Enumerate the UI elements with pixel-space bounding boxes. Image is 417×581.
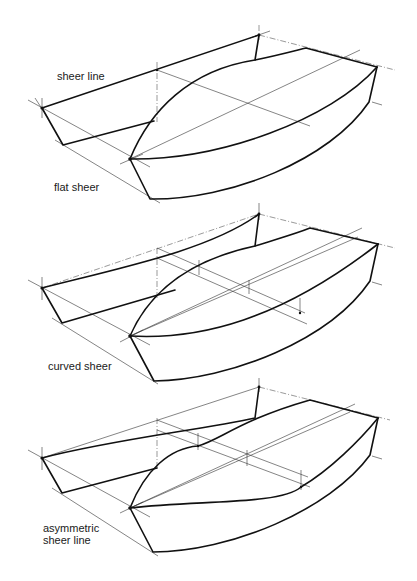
transom-edge — [42, 108, 154, 145]
construction-line — [52, 318, 158, 384]
construction-line — [157, 420, 308, 477]
tick-mark — [372, 456, 382, 459]
node — [197, 445, 199, 447]
node — [258, 386, 261, 389]
chine-line — [130, 418, 378, 508]
node — [128, 157, 132, 161]
hull-bottom — [130, 418, 378, 552]
construction-line — [55, 140, 160, 203]
panel-flat-sheer — [28, 25, 395, 203]
label-flat-sheer: flat sheer — [54, 181, 99, 193]
tick-mark — [372, 102, 382, 105]
node — [40, 106, 43, 109]
construction-line — [157, 258, 307, 324]
label-asymmetric-sheer-line: sheer line — [43, 534, 91, 546]
boat-sheer-diagram: sheer line flat sheer curved sheer asymm… — [0, 0, 417, 581]
label-curved-sheer: curved sheer — [48, 360, 112, 372]
hull-bottom — [130, 67, 377, 199]
construction-line — [42, 214, 259, 288]
node — [40, 286, 43, 289]
deck-edge — [130, 48, 377, 159]
node — [258, 34, 261, 37]
construction-line — [130, 404, 355, 508]
stern-post — [255, 214, 259, 246]
node — [128, 334, 132, 338]
node — [299, 312, 301, 314]
diagram-svg — [0, 0, 417, 581]
construction-line — [157, 70, 310, 126]
stern-post — [255, 35, 259, 60]
label-asymmetric: asymmetric — [43, 522, 99, 534]
panel-curved-sheer — [28, 203, 395, 384]
construction-line — [259, 35, 395, 70]
chine-line — [130, 244, 378, 336]
chine-line — [130, 67, 377, 159]
construction-line — [42, 387, 259, 458]
node — [40, 456, 43, 459]
node — [258, 213, 261, 216]
hull-bottom — [130, 244, 378, 381]
construction-line — [130, 237, 358, 336]
label-sheer-line: sheer line — [57, 70, 105, 82]
node — [300, 486, 302, 488]
node — [128, 506, 132, 510]
transom-edge — [42, 288, 175, 323]
construction-line — [157, 430, 310, 487]
tick-mark — [372, 282, 382, 285]
node — [156, 69, 158, 71]
